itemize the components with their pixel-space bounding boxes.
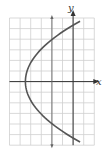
reference-arrow-up-icon bbox=[50, 15, 53, 19]
axes bbox=[10, 10, 100, 148]
x-axis-label: x bbox=[96, 76, 102, 87]
parabola-chart: y x bbox=[0, 0, 105, 153]
y-axis-label: y bbox=[67, 2, 74, 13]
reference-arrow-down-icon bbox=[50, 144, 53, 148]
